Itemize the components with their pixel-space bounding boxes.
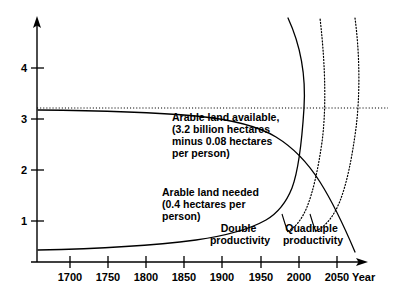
series-quadruple-productivity (316, 18, 359, 231)
x-axis-ticks: 1700 1750 1800 1850 1900 1950 2000 2050 (58, 256, 349, 283)
x-tick-label-2050: 2050 (325, 271, 349, 283)
x-tick-label-1900: 1900 (210, 271, 234, 283)
annot-line: Arable land needed (162, 186, 259, 198)
annot-line: minus 0.08 hectares (172, 135, 273, 147)
x-tick-label-1800: 1800 (134, 271, 158, 283)
arable-land-available-note: Arable land available, (3.2 billion hect… (172, 111, 282, 159)
y-tick-label-2: 2 (21, 164, 27, 176)
y-tick-label-1: 1 (21, 215, 27, 227)
series-double-productivity (288, 18, 325, 231)
chart-canvas: 4 3 2 1 1700 1750 1800 1850 1900 1950 20… (0, 0, 395, 289)
x-tick-label-2000: 2000 (287, 271, 311, 283)
x-tick-label-1750: 1750 (96, 271, 120, 283)
quadruple-productivity-label: Quadruple productivity (283, 222, 343, 246)
y-tick-label-3: 3 (21, 113, 27, 125)
branch-label-line: productivity (210, 234, 270, 246)
arable-land-needed-note: Arable land needed (0.4 hectares per per… (162, 186, 262, 222)
annot-line: person) (162, 210, 201, 222)
annot-line: Arable land available, (172, 111, 279, 123)
population-arable-land-chart: 4 3 2 1 1700 1750 1800 1850 1900 1950 20… (0, 0, 395, 289)
annot-line: (3.2 billion hectares (172, 123, 270, 135)
y-tick-label-4: 4 (21, 62, 28, 74)
annot-line: per person) (172, 147, 230, 159)
annot-line: (0.4 hectares per (162, 198, 245, 210)
x-tick-label-1700: 1700 (58, 271, 82, 283)
y-axis-ticks: 4 3 2 1 (21, 62, 44, 227)
branch-label-line: Quadruple (285, 222, 338, 234)
x-tick-label-1950: 1950 (249, 271, 273, 283)
x-axis-title: Year (352, 271, 376, 283)
branch-label-line: Double (221, 222, 257, 234)
x-tick-label-1850: 1850 (172, 271, 196, 283)
double-productivity-label: Double productivity (210, 222, 270, 246)
branch-label-line: productivity (283, 234, 343, 246)
